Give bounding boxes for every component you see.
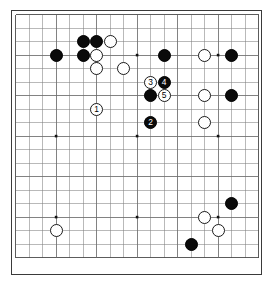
stone-white[interactable] [117, 62, 130, 75]
stone-white-move-3[interactable]: 3 [144, 76, 157, 89]
stone-black[interactable] [77, 49, 90, 62]
stone-black[interactable] [225, 197, 238, 210]
stone-white[interactable] [198, 116, 211, 129]
stone-white-move-1[interactable]: 1 [90, 103, 103, 116]
stone-black-move-4[interactable]: 4 [158, 76, 171, 89]
move-number-label: 1 [94, 105, 99, 113]
stone-black[interactable] [225, 89, 238, 102]
move-number-label: 2 [148, 118, 153, 126]
stone-white[interactable] [198, 211, 211, 224]
stone-black[interactable] [225, 49, 238, 62]
stone-black-move-2[interactable]: 2 [144, 116, 157, 129]
stone-black[interactable] [90, 35, 103, 48]
stone-black[interactable] [158, 49, 171, 62]
stone-white-move-5[interactable]: 5 [158, 89, 171, 102]
stone-white[interactable] [198, 89, 211, 102]
stone-white[interactable] [90, 49, 103, 62]
move-number-label: 4 [162, 78, 167, 86]
move-number-label: 3 [148, 78, 153, 86]
stone-white[interactable] [212, 224, 225, 237]
stone-black[interactable] [144, 89, 157, 102]
stone-white[interactable] [50, 224, 63, 237]
stone-black[interactable] [50, 49, 63, 62]
stone-layer: 34512 [0, 0, 273, 285]
go-board-diagram: 34512 [0, 0, 273, 285]
stone-white[interactable] [90, 62, 103, 75]
stone-white[interactable] [198, 49, 211, 62]
stone-black[interactable] [185, 238, 198, 251]
stone-black[interactable] [77, 35, 90, 48]
move-number-label: 5 [162, 91, 167, 99]
stone-white[interactable] [104, 35, 117, 48]
